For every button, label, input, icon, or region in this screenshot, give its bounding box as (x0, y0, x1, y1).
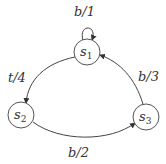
edge-s1-s1 (82, 28, 93, 40)
state-s3: s3 (133, 104, 159, 130)
label-s3-s1: b/3 (138, 69, 159, 84)
edge-s2-s3 (33, 122, 135, 137)
state-s2: s2 (8, 102, 34, 128)
state-s1: s1 (74, 39, 100, 65)
edge-s3-s1 (100, 55, 143, 104)
state-diagram: s1 s2 s3 b/1 t/4 b/2 b/3 (0, 0, 166, 164)
label-loop: b/1 (74, 4, 95, 19)
label-s1-s2: t/4 (8, 70, 26, 85)
label-s2-s3: b/2 (68, 145, 89, 160)
edge-s1-s2 (26, 57, 75, 103)
